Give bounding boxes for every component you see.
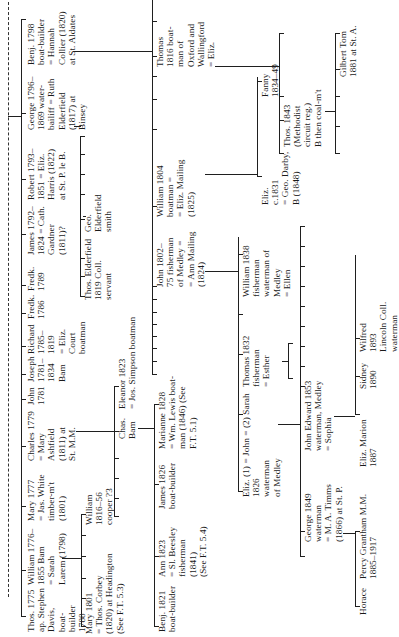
connector bbox=[205, 271, 238, 272]
chas-children-bar bbox=[154, 405, 155, 627]
tick bbox=[81, 556, 86, 557]
person-george-1849: George 1849 waterman = M. A. Timms (1866… bbox=[303, 484, 344, 542]
tick bbox=[80, 194, 85, 195]
tick bbox=[238, 314, 243, 315]
person-thomas-1832: Thomas 1832 fisherman = Esther bbox=[241, 336, 272, 387]
tick bbox=[114, 498, 119, 499]
person-horace: Horace bbox=[358, 588, 368, 615]
tick bbox=[152, 336, 157, 337]
tick bbox=[300, 306, 305, 307]
tick bbox=[335, 126, 340, 127]
tick bbox=[152, 324, 157, 325]
generation1-bar bbox=[21, 19, 22, 617]
person-eliz-marion: Eliz. Marion 1887 bbox=[358, 419, 378, 467]
tick bbox=[152, 348, 157, 349]
william1804-children-bar bbox=[257, 77, 258, 177]
person-fredk-1789: Fredk. 1789 bbox=[26, 267, 46, 291]
tick bbox=[279, 96, 284, 97]
person-eleanor-1823: Eleanor 1823 = Jos. Simpson boatman bbox=[117, 317, 137, 409]
tick bbox=[152, 99, 157, 100]
person-william-1804: William 1804 boatman = = Eliz. Mailing (… bbox=[155, 160, 196, 217]
person-john-1781: John 1781 bbox=[26, 386, 46, 405]
tick bbox=[279, 33, 284, 34]
ancestor-dashed-line bbox=[8, 2, 9, 597]
person-fanny: Fanny 1834–49 bbox=[260, 64, 280, 97]
tick bbox=[152, 361, 157, 362]
person-marianne-1828: Marianne 1828 = Wm. Lewis boat- man (184… bbox=[157, 376, 198, 449]
person-richard-1785: Richard 1785– 1819 = Eliz. Court boatman bbox=[26, 322, 87, 354]
tick bbox=[114, 516, 119, 517]
person-wilfred: Wilfred 1893 Lincoln Coll. waterman bbox=[358, 302, 399, 352]
person-thomas-1816: Thomas 1816 boat- man of Oxford and Wall… bbox=[155, 22, 216, 67]
tick bbox=[279, 153, 284, 154]
tick bbox=[238, 414, 243, 415]
john1826-children-bar bbox=[300, 227, 301, 557]
person-thos-1843: Thos. 1843 (Methodist circuit reg.) B th… bbox=[282, 89, 323, 147]
tick bbox=[335, 96, 340, 97]
person-william-1816: William 1816–56 cooper ?3 bbox=[84, 488, 115, 525]
connector bbox=[205, 174, 257, 175]
person-william-1776: William 1776– 1855 Bam = Sarah Larem (17… bbox=[26, 529, 67, 585]
thomas1832-bar bbox=[288, 344, 289, 379]
person-benj-1821: Benj. 1821 boat-builder bbox=[157, 586, 177, 632]
tick bbox=[152, 299, 157, 300]
tick bbox=[152, 76, 157, 77]
connector bbox=[138, 428, 154, 429]
george1849-children-bar bbox=[355, 532, 356, 607]
person-thos-1775: Thos. 1775 ap. Stephen Davis, boat- buil… bbox=[26, 588, 87, 632]
person-sidney: Sidney 1890 bbox=[358, 363, 378, 389]
person-john-edward-1853: John Edward 1853 waterman, Medley = Soph… bbox=[303, 381, 334, 452]
tick bbox=[300, 556, 305, 557]
connector bbox=[74, 126, 81, 127]
connector bbox=[76, 431, 114, 432]
person-geo-elderfield: Geo. Elderfield smith bbox=[83, 194, 114, 232]
person-robert-1793: Robert 1793– 1851 = Eliz. Harris (1822) … bbox=[26, 149, 67, 200]
person-charles-1779: Charles 1779 = Mary Ashfield (1811) at S… bbox=[26, 411, 77, 461]
person-ann-1823: Ann 1823 = Sl. Beesley fisherman (1841) … bbox=[157, 526, 208, 577]
person-george-1796: George 1796– 1869 water- bailiff = Ruth … bbox=[26, 77, 87, 130]
person-eliz-1831: Eliz. c.1831 = Geo. Darby, B (1848) bbox=[260, 152, 301, 205]
person-fredk-1786: Fredk. 1786 bbox=[26, 295, 46, 319]
connector bbox=[73, 51, 152, 52]
tick bbox=[80, 174, 85, 175]
tick bbox=[81, 578, 86, 579]
person-mary-1777: Mary 1777 = Jas. White timber-m't (1801) bbox=[26, 474, 67, 521]
tick bbox=[300, 226, 305, 227]
person-benj-1798: Benj. 1798 boat-builder = Hannah Collier… bbox=[26, 11, 77, 65]
tick bbox=[300, 326, 305, 327]
connector bbox=[215, 66, 279, 67]
thos1843-children-bar bbox=[335, 34, 336, 154]
connector bbox=[334, 416, 355, 417]
tick bbox=[300, 346, 305, 347]
tick bbox=[300, 366, 305, 367]
person-thos-elderfield: Thos. Elderfield 1819 Coll. servant bbox=[83, 239, 114, 300]
tick bbox=[152, 374, 157, 375]
person-james-1826: James 1826 boat-builder bbox=[157, 463, 177, 509]
ancestor-connector bbox=[8, 116, 21, 117]
tick bbox=[81, 535, 86, 536]
tick bbox=[288, 378, 293, 379]
tick bbox=[114, 478, 119, 479]
tick bbox=[81, 598, 86, 599]
tick bbox=[288, 343, 293, 344]
connector bbox=[343, 533, 355, 534]
tick bbox=[300, 246, 305, 247]
johnedward-children-bar bbox=[355, 255, 356, 415]
william-children-bar bbox=[81, 515, 82, 627]
tick bbox=[335, 153, 340, 154]
connector bbox=[62, 558, 81, 559]
thomas1816-children-bar bbox=[279, 34, 280, 154]
george-children-bar bbox=[80, 137, 81, 297]
person-mary-1801: Mary 1801 = Thos. Corbey (1820) at Headi… bbox=[84, 553, 125, 634]
person-john-1802: John 1802– 75 fisherman of Medley = = An… bbox=[155, 232, 206, 287]
connector bbox=[278, 424, 300, 425]
tick bbox=[114, 458, 119, 459]
tick bbox=[355, 414, 360, 415]
person-william-1838: William 1838 fisherman waterman of Medle… bbox=[241, 245, 292, 297]
tick bbox=[80, 136, 85, 137]
person-joseph-1781: Joseph 1781– 1834 Bam bbox=[26, 356, 67, 382]
person-james-1792: James 1792– 1824 = Cath. Gardner (1811)? bbox=[26, 206, 67, 255]
john1802-children-bar bbox=[238, 237, 239, 492]
tick bbox=[300, 266, 305, 267]
